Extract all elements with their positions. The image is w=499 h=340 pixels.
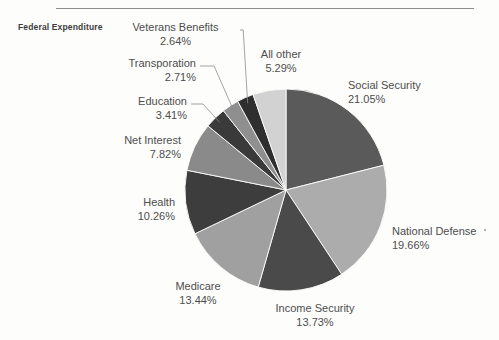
- slice-name-veterans-benefits: Veterans Benefits: [132, 21, 218, 33]
- slice-label-health: Health 10.26%: [83, 196, 175, 223]
- slice-pct-veterans-benefits: 2.64%: [113, 35, 238, 49]
- slice-pct-all-other: 5.29%: [245, 62, 317, 76]
- pie-slices: [185, 89, 387, 291]
- slice-label-education: Education 3.41%: [83, 95, 187, 122]
- pie-chart-figure: Federal Expenditure Social Security 21.0…: [0, 0, 499, 340]
- slice-label-net-interest: Net Interest 7.82%: [83, 134, 181, 161]
- slice-label-transporation: Transporation 2.71%: [78, 57, 196, 84]
- leader-line: [200, 66, 234, 111]
- slice-label-income-security: Income Security 13.73%: [262, 302, 368, 329]
- slice-name-health: Health: [143, 196, 175, 208]
- slice-label-veterans-benefits: Veterans Benefits 2.64%: [113, 21, 238, 48]
- slice-pct-education: 3.41%: [83, 109, 187, 123]
- slice-name-income-security: Income Security: [276, 302, 355, 314]
- slice-pct-income-security: 13.73%: [262, 316, 368, 330]
- slice-label-medicare: Medicare 13.44%: [155, 280, 241, 307]
- slice-label-social-security: Social Security 21.05%: [348, 79, 421, 106]
- slice-name-medicare: Medicare: [175, 280, 220, 292]
- slice-name-education: Education: [138, 95, 187, 107]
- slice-pct-net-interest: 7.82%: [83, 148, 181, 162]
- slice-label-national-defense: National Defense 19.66%: [392, 225, 476, 252]
- slice-name-social-security: Social Security: [348, 79, 421, 91]
- slice-name-transporation: Transporation: [129, 57, 196, 69]
- slice-label-all-other: All other 5.29%: [245, 48, 317, 75]
- slice-pct-transporation: 2.71%: [78, 71, 196, 85]
- slice-pct-national-defense: 19.66%: [392, 239, 476, 253]
- slice-name-national-defense: National Defense: [392, 225, 476, 237]
- slice-pct-social-security: 21.05%: [348, 93, 421, 107]
- slice-pct-health: 10.26%: [83, 210, 175, 224]
- slice-name-net-interest: Net Interest: [124, 134, 181, 146]
- slice-name-all-other: All other: [261, 48, 301, 60]
- slice-pct-medicare: 13.44%: [155, 294, 241, 308]
- page-speck: [484, 229, 486, 231]
